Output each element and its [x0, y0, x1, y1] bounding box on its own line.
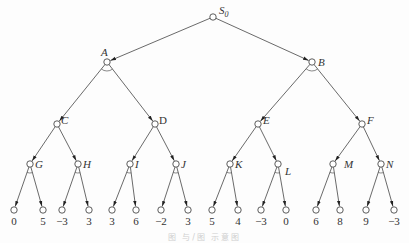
node-d	[152, 121, 158, 127]
leaf-value: −2	[155, 216, 167, 227]
edge-arrow	[32, 127, 55, 161]
leaf-node	[363, 207, 369, 213]
edge-arrow	[314, 64, 360, 121]
node-s0	[210, 14, 216, 20]
leaf-value: 0	[11, 216, 17, 227]
leaf-value: 8	[337, 216, 343, 227]
edge-arrow	[132, 127, 153, 161]
and-arc	[275, 172, 280, 173]
node-label-j: J	[181, 159, 186, 170]
edge-arrow	[15, 167, 29, 206]
and-arc	[227, 172, 232, 173]
edge-arrow	[216, 18, 309, 60]
node-a	[104, 59, 110, 65]
edge-arrow	[110, 18, 210, 60]
node-label-k: K	[235, 159, 242, 170]
edge-arrow	[213, 167, 228, 207]
game-tree-diagram: S0ABCDEFGHIJKLMN 05−3336−2354−30689−3 图 …	[0, 0, 409, 243]
leaf-value: 4	[235, 216, 241, 227]
and-arc	[127, 172, 131, 173]
edge-arrow	[113, 167, 128, 207]
node-label-c: C	[61, 115, 68, 126]
node-label-a: A	[101, 47, 108, 58]
node-b	[309, 59, 315, 65]
leaf-node	[391, 207, 397, 213]
node-label-i: I	[135, 159, 139, 170]
edge-arrow	[59, 64, 105, 121]
leaf-node	[109, 207, 115, 213]
leaf-value: 3	[109, 216, 115, 227]
leaf-node	[313, 207, 319, 213]
edge-arrow	[260, 64, 309, 121]
node-label-e: E	[263, 115, 270, 126]
leaf-node	[133, 207, 139, 213]
edge-arrow	[363, 127, 379, 161]
node-c	[54, 121, 60, 127]
leaf-value: 3	[185, 216, 191, 227]
leaf-value: 0	[283, 216, 289, 227]
node-m	[330, 161, 336, 167]
edge-arrow	[162, 167, 175, 206]
node-n	[378, 161, 384, 167]
node-g	[27, 161, 33, 167]
edge-arrow	[58, 127, 76, 161]
leaf-node	[337, 207, 343, 213]
leaf-value: −3	[255, 216, 267, 227]
edge-arrow	[231, 167, 238, 206]
node-e	[255, 121, 261, 127]
edge-arrow	[109, 65, 153, 122]
node-j	[173, 161, 179, 167]
edge-arrow	[63, 167, 77, 206]
node-label-d: D	[159, 115, 167, 126]
node-label-s0: S0	[219, 5, 229, 19]
and-arc	[306, 69, 318, 71]
leaf-value: 5	[40, 216, 46, 227]
node-label-n: N	[386, 159, 393, 170]
edge-arrow	[262, 167, 277, 207]
node-label-f: F	[367, 115, 374, 126]
edge-arrow	[156, 127, 174, 161]
node-label-b: B	[318, 57, 325, 68]
node-label-l: L	[285, 166, 291, 177]
node-label-h: H	[83, 159, 91, 170]
leaf-node	[283, 207, 289, 213]
leaf-node	[86, 207, 92, 213]
leaf-value: 5	[209, 216, 215, 227]
leaf-node	[40, 207, 46, 213]
node-i	[127, 161, 133, 167]
edge-arrow	[177, 167, 187, 206]
figure-caption: 图 与/图 示意图	[0, 231, 409, 242]
leaf-node	[59, 207, 65, 213]
leaf-value: −3	[56, 216, 68, 227]
leaf-node	[235, 207, 241, 213]
leaf-value: 6	[133, 216, 139, 227]
leaf-value: 9	[363, 216, 369, 227]
edge-arrow	[31, 167, 42, 206]
leaf-node	[158, 207, 164, 213]
node-label-g: G	[35, 159, 43, 170]
node-l	[275, 161, 281, 167]
node-f	[359, 121, 365, 127]
leaf-value: 6	[313, 216, 319, 227]
edge-arrow	[382, 167, 393, 206]
edge-arrow	[335, 127, 360, 161]
node-k	[227, 161, 233, 167]
edge-arrow	[232, 127, 256, 161]
leaf-node	[185, 207, 191, 213]
node-label-m: M	[344, 159, 353, 170]
leaf-node	[258, 207, 264, 213]
and-arc	[101, 69, 112, 71]
leaf-node	[11, 207, 17, 213]
leaf-value: 3	[86, 216, 92, 227]
and-arc	[330, 172, 334, 173]
node-h	[75, 161, 81, 167]
edge-arrow	[367, 167, 380, 206]
edge-arrow	[259, 127, 276, 161]
leaf-value: −3	[388, 216, 400, 227]
edge-arrow	[333, 167, 339, 206]
edge-arrow	[317, 167, 332, 207]
leaf-node	[209, 207, 215, 213]
